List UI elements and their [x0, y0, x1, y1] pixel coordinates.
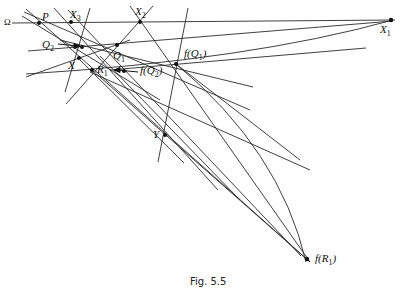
label-p: P: [42, 11, 49, 22]
point-p: [37, 21, 41, 25]
label-q1: Q1: [113, 50, 125, 64]
label-fr1: f(R1): [315, 253, 336, 267]
line-q1-down: [100, 56, 240, 200]
arrow-fq2: [118, 70, 138, 72]
label-fq2: f(Q2): [140, 65, 162, 79]
point-x2: [138, 20, 142, 24]
line-fq2-right: [90, 72, 310, 170]
label-x: X: [68, 60, 75, 71]
point-x: [77, 56, 81, 60]
line-x3-a: [54, 8, 218, 190]
label-q2: Q2: [42, 39, 54, 53]
point-fq2: [122, 69, 126, 73]
point-fr1: [305, 257, 309, 261]
point-q1: [115, 43, 119, 47]
point-r1: [90, 68, 94, 72]
point-q2: [80, 45, 84, 49]
label-r1: R1: [97, 64, 108, 78]
line-fq1-y: [158, 8, 188, 162]
line-r1-y: [80, 60, 184, 163]
point-y: [163, 133, 167, 137]
figure-caption: Fig. 5.5: [190, 276, 226, 287]
line-q-fq1: [60, 40, 253, 87]
label-x1: X1: [380, 24, 391, 38]
line-r1-fr1: [92, 70, 310, 262]
point-fq1: [174, 62, 178, 66]
line-p-b: [22, 16, 160, 100]
point-x1: [389, 18, 393, 22]
omega-label: Ω: [4, 18, 11, 27]
label-y: Y: [153, 129, 159, 140]
curve-fq1-fr1: [176, 64, 306, 262]
line-fq1-down: [176, 64, 300, 160]
label-x3: X3: [70, 9, 81, 23]
label-x2: X2: [135, 6, 146, 20]
label-fq1: f(Q1): [184, 48, 206, 62]
geometry-diagram: [0, 0, 402, 294]
